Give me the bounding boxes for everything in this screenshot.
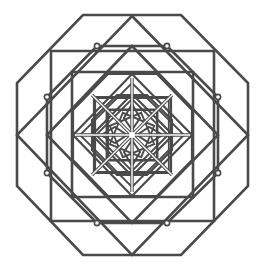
star-lattice-drawing <box>0 0 264 274</box>
corner-node <box>164 220 169 225</box>
geometric-pattern-figure <box>0 0 264 274</box>
corner-node <box>44 170 49 175</box>
spoke-layer <box>76 78 189 192</box>
corner-node <box>164 43 169 48</box>
corner-node <box>44 94 49 99</box>
center-point <box>129 132 135 138</box>
corner-node <box>215 170 220 175</box>
corner-node <box>94 43 99 48</box>
corner-node <box>94 220 99 225</box>
corner-node <box>215 94 220 99</box>
